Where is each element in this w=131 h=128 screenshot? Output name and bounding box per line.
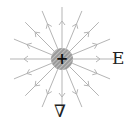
- field-line: [70, 67, 99, 96]
- field-line: [14, 63, 52, 79]
- field-line: [14, 39, 52, 55]
- field-line: [72, 63, 110, 79]
- field-line: [66, 11, 82, 49]
- field-label-e: E: [112, 50, 124, 67]
- plus-sign-icon: +: [56, 50, 69, 68]
- field-line: [25, 22, 54, 51]
- field-line: [25, 67, 54, 96]
- field-line: [42, 11, 58, 49]
- positive-charge: +: [51, 48, 73, 70]
- field-line: [72, 39, 110, 55]
- field-line: [66, 69, 82, 107]
- nabla-label: ∇: [54, 103, 66, 120]
- field-line: [70, 22, 99, 51]
